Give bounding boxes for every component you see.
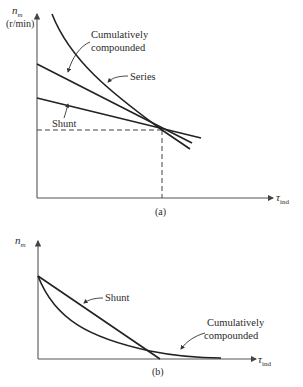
y-axis-unit-a: (r/min) <box>6 18 34 30</box>
x-axis-label-a: τind <box>276 191 289 206</box>
y-axis-label-a: nm <box>12 4 23 19</box>
caption-b: (b) <box>152 366 164 378</box>
shunt-leader-b <box>84 298 103 303</box>
cumulative-label-b-line2: compounded <box>204 330 259 341</box>
panel-b: nm τind Shunt Cumulatively compounded (b… <box>15 234 271 378</box>
series-label-a: Series <box>130 71 156 82</box>
cumulative-leader-b <box>181 333 205 349</box>
cumulative-compounded-curve-b <box>38 276 221 358</box>
caption-a: (a) <box>155 206 166 218</box>
series-leader-a <box>108 76 128 82</box>
shunt-leader-a <box>64 104 68 118</box>
cumulative-label-a-line2: compounded <box>91 42 146 53</box>
shunt-label-b: Shunt <box>105 292 130 303</box>
shunt-label-a: Shunt <box>52 118 77 129</box>
shunt-curve-b <box>38 276 160 359</box>
torque-speed-figure: nm (r/min) τind Cumulatively compounded … <box>0 0 303 387</box>
cumulative-label-a-line1: Cumulatively <box>91 29 149 40</box>
panel-a: nm (r/min) τind Cumulatively compounded … <box>6 4 289 218</box>
cumulative-label-b-line1: Cumulatively <box>207 317 265 328</box>
y-axis-label-b: nm <box>15 234 26 249</box>
x-axis-label-b: τind <box>258 353 271 368</box>
